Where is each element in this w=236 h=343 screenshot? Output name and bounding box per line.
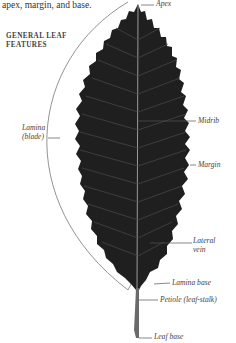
label-lateral-vein: Lateral vein [193,237,215,254]
label-lateral-vein-line-2: vein [193,246,215,255]
leaf-blade [75,4,190,290]
label-lamina-line-2: (blade) [22,133,45,142]
label-lamina-base: Lamina base [172,279,211,288]
label-midrib: Midrib [198,117,219,126]
leaf-diagram [0,0,236,343]
label-lamina: Lamina (blade) [22,124,45,141]
lamina-base-leader [154,283,170,284]
label-petiole: Petiole (leaf-stalk) [160,296,217,305]
label-apex: Apex [156,0,171,9]
label-leaf-base: Leaf base [154,333,183,342]
label-margin: Margin [198,161,221,170]
petiole [134,288,139,338]
